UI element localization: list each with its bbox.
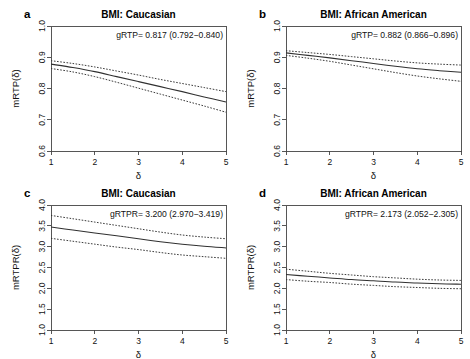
y-tick-label: 0.9	[272, 51, 282, 63]
curve-estimate	[286, 53, 461, 72]
panel-title: BMI: Caucasian	[101, 188, 175, 199]
y-tick-label: 3.0	[272, 240, 282, 252]
y-tick-label: 4.0	[272, 199, 282, 211]
y-tick-label: 3.0	[37, 240, 47, 252]
figure-grid: aBMI: Caucasian123450.60.70.80.91.0δmRTP…	[0, 0, 470, 359]
curve-estimate	[51, 227, 226, 248]
x-axis-title: δ	[136, 170, 141, 179]
curve-estimate	[51, 64, 226, 102]
y-tick-label: 2.0	[272, 282, 282, 294]
x-tick-label: 4	[415, 336, 420, 346]
x-tick-label: 2	[92, 336, 97, 346]
x-tick-label: 2	[327, 157, 332, 167]
x-tick-label: 5	[459, 157, 464, 167]
y-tick-label: 0.8	[37, 82, 47, 94]
y-tick-label: 2.5	[37, 261, 47, 273]
y-tick-label: 1.0	[37, 20, 47, 32]
panel-a: aBMI: Caucasian123450.60.70.80.91.0δmRTP…	[0, 0, 235, 179]
curve-upper-95ci	[51, 61, 226, 92]
curve-upper-95ci	[286, 269, 461, 280]
x-tick-label: 3	[371, 336, 376, 346]
panel-letter-c: c	[24, 187, 31, 199]
y-tick-label: 0.7	[37, 114, 47, 126]
y-tick-label: 2.5	[272, 261, 282, 273]
y-tick-label: 1.5	[272, 303, 282, 315]
plot-box	[286, 205, 461, 330]
plot-box	[286, 26, 461, 151]
y-tick-label: 2.0	[37, 282, 47, 294]
y-axis-title: mRTPR(δ)	[10, 245, 21, 290]
panel-title: BMI: African American	[320, 9, 427, 20]
x-tick-label: 1	[49, 336, 54, 346]
x-tick-label: 5	[224, 157, 229, 167]
x-tick-label: 2	[327, 336, 332, 346]
panel-letter-b: b	[259, 8, 266, 20]
x-tick-label: 1	[284, 336, 289, 346]
y-tick-label: 0.6	[272, 145, 282, 157]
y-tick-label: 1.0	[37, 324, 47, 336]
plot-box	[51, 26, 226, 151]
x-tick-label: 2	[92, 157, 97, 167]
statistic-annotation: gRTPR= 3.200 (2.970−3.419)	[110, 209, 223, 219]
y-tick-label: 0.8	[272, 82, 282, 94]
panel-d: dBMI: African American123451.01.52.02.53…	[235, 179, 470, 359]
y-tick-label: 0.9	[37, 51, 47, 63]
x-tick-label: 3	[136, 336, 141, 346]
x-tick-label: 5	[224, 336, 229, 346]
x-tick-label: 5	[459, 336, 464, 346]
y-tick-label: 3.5	[272, 220, 282, 232]
y-tick-label: 1.5	[37, 303, 47, 315]
x-axis-title: δ	[371, 170, 376, 179]
x-tick-label: 4	[415, 157, 420, 167]
curve-estimate	[286, 275, 461, 285]
panel-letter-a: a	[24, 8, 31, 20]
curve-lower-95ci	[51, 238, 226, 258]
panel-title: BMI: Caucasian	[101, 9, 175, 20]
y-tick-label: 0.7	[272, 114, 282, 126]
y-tick-label: 1.0	[272, 20, 282, 32]
y-axis-title: mRTPR(δ)	[245, 245, 256, 290]
curve-upper-95ci	[286, 51, 461, 65]
x-axis-title: δ	[136, 349, 141, 359]
panel-b: bBMI: African American123450.60.70.80.91…	[235, 0, 470, 179]
x-tick-label: 1	[284, 157, 289, 167]
y-tick-label: 1.0	[272, 324, 282, 336]
x-tick-label: 1	[49, 157, 54, 167]
y-tick-label: 4.0	[37, 199, 47, 211]
x-tick-label: 3	[371, 157, 376, 167]
y-tick-label: 3.5	[37, 220, 47, 232]
panel-c: cBMI: Caucasian123451.01.52.02.53.03.54.…	[0, 179, 235, 359]
plot-box	[51, 205, 226, 330]
curve-lower-95ci	[51, 69, 226, 113]
x-tick-label: 4	[180, 336, 185, 346]
panel-letter-d: d	[259, 187, 266, 199]
panel-title: BMI: African American	[320, 188, 427, 199]
y-axis-title: mRTP(δ)	[10, 69, 21, 107]
statistic-annotation: gRTP= 0.882 (0.866−0.896)	[351, 30, 458, 40]
y-axis-title: mRTP(δ)	[245, 69, 256, 107]
x-tick-label: 4	[180, 157, 185, 167]
y-tick-label: 0.6	[37, 145, 47, 157]
statistic-annotation: gRTP= 0.817 (0.792−0.840)	[116, 30, 223, 40]
x-axis-title: δ	[371, 349, 376, 359]
x-tick-label: 3	[136, 157, 141, 167]
statistic-annotation: gRTPR= 2.173 (2.052−2.305)	[345, 209, 458, 219]
